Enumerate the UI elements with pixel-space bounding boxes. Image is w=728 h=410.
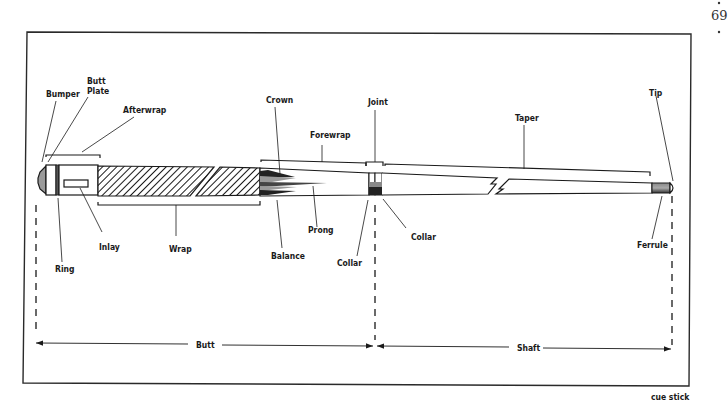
label-collar-left: Collar (337, 258, 362, 268)
dimension-label-butt: Butt (196, 340, 215, 350)
page-number-text: 69 (711, 8, 728, 23)
collars (369, 173, 382, 195)
cue-stick-diagram-page: 69 (0, 0, 728, 410)
bumper (38, 166, 46, 194)
shaft-assembly (382, 173, 673, 195)
cue-stick-diagram: 69 (0, 0, 728, 410)
dimension-lines: Butt Shaft (36, 196, 672, 353)
label-prong: Prong (308, 225, 334, 235)
label-joint: Joint (367, 97, 388, 107)
label-tip: Tip (649, 88, 663, 98)
inlay (64, 180, 88, 187)
label-butt-plate-2: Plate (87, 86, 109, 96)
label-ferrule: Ferrule (637, 240, 668, 250)
label-afterwrap: Afterwrap (123, 105, 167, 115)
label-ring: Ring (55, 264, 74, 274)
butt-plate (46, 165, 56, 195)
page-number: 69 (711, 2, 728, 33)
label-wrap: Wrap (169, 244, 192, 254)
figure-caption: cue stick (651, 392, 690, 402)
wrap-bracket (98, 201, 260, 205)
label-inlay: Inlay (99, 242, 120, 252)
label-taper: Taper (515, 113, 539, 123)
label-butt-plate-1: Butt (87, 76, 106, 86)
butt-assembly (38, 165, 382, 196)
label-forewrap: Forewrap (310, 130, 351, 140)
diagram-frame (23, 32, 691, 386)
label-balance: Balance (271, 251, 305, 261)
wrap-left (98, 166, 214, 196)
shaft-left (382, 173, 497, 195)
afterwrap-bracket (46, 155, 100, 158)
label-bumper: Bumper (46, 89, 80, 99)
taper-bracket (385, 164, 650, 176)
label-crown: Crown (266, 95, 293, 105)
joint-bracket (366, 162, 383, 166)
label-collar-right: Collar (411, 232, 436, 242)
tip (670, 183, 673, 193)
shaft-right (496, 179, 652, 194)
dimension-label-shaft: Shaft (517, 343, 540, 353)
forewrap-bracket (261, 160, 366, 166)
ferrule (652, 183, 670, 193)
